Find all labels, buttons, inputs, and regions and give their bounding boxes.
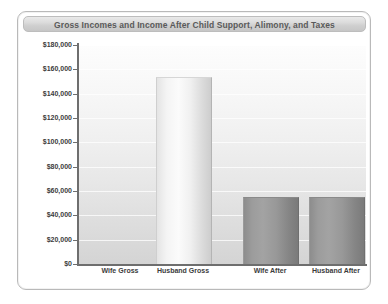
y-tick-label: $0 (12, 260, 72, 267)
gridline (78, 45, 366, 46)
y-tick-mark (73, 240, 78, 241)
y-tick-label: $20,000 (12, 236, 72, 243)
y-tick-label: $140,000 (12, 90, 72, 97)
chart-title: Gross Incomes and Income After Child Sup… (24, 17, 365, 32)
y-tick-label: $60,000 (12, 187, 72, 194)
y-tick-mark (73, 45, 78, 46)
gridline (78, 167, 366, 168)
y-tick-mark (73, 69, 78, 70)
y-tick-mark (73, 264, 78, 265)
x-axis-line (77, 264, 367, 266)
y-tick-mark (73, 94, 78, 95)
gridline (78, 69, 366, 70)
gridline (78, 142, 366, 143)
gridline (78, 94, 366, 95)
y-tick-mark (73, 118, 78, 119)
bar-wife-after (243, 197, 299, 264)
y-tick-label: $180,000 (12, 41, 72, 48)
bar-husband-gross (156, 77, 212, 264)
y-tick-label: $120,000 (12, 114, 72, 121)
y-tick-mark (73, 167, 78, 168)
y-tick-mark (73, 142, 78, 143)
y-tick-label: $40,000 (12, 211, 72, 218)
chart-title-band: Gross Incomes and Income After Child Sup… (23, 16, 366, 32)
bar-husband-after (309, 197, 365, 264)
y-tick-mark (73, 215, 78, 216)
gridline (78, 191, 366, 192)
y-tick-label: $100,000 (12, 138, 72, 145)
chart-frame: Gross Incomes and Income After Child Sup… (17, 11, 371, 290)
plot-area (78, 45, 366, 264)
y-tick-mark (73, 191, 78, 192)
y-tick-label: $80,000 (12, 163, 72, 170)
x-tick-label: Husband After (291, 267, 381, 274)
y-tick-label: $160,000 (12, 65, 72, 72)
x-tick-label: Husband Gross (138, 267, 228, 274)
y-axis-line (77, 43, 79, 266)
gridline (78, 118, 366, 119)
